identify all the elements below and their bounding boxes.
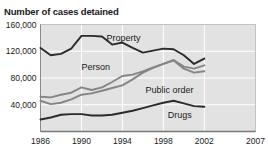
plot-area: 40,00080,000120,000160,00019861990199419… (0, 0, 268, 152)
x-tick-label-4: 2002 (195, 136, 214, 146)
x-tick-label-1: 1990 (72, 136, 91, 146)
chart-figure: Number of cases detained 40,00080,000120… (0, 0, 268, 152)
x-tick-label-5: 2007 (246, 136, 265, 146)
y-tick-label-0: 40,000 (11, 100, 37, 110)
series-label-property: Property (106, 33, 141, 43)
series-label-public-order: Public order (145, 85, 193, 95)
x-tick-label-2: 1994 (113, 136, 132, 146)
y-tick-label-3: 160,000 (6, 20, 37, 30)
x-tick-label-3: 1998 (154, 136, 173, 146)
x-tick-label-0: 1986 (31, 136, 50, 146)
series-label-person: Person (82, 62, 111, 72)
line-chart-svg: 40,00080,000120,000160,00019861990199419… (0, 0, 268, 152)
series-label-drugs: Drugs (168, 110, 193, 120)
y-tick-label-2: 120,000 (6, 46, 37, 56)
y-tick-label-1: 80,000 (11, 73, 37, 83)
